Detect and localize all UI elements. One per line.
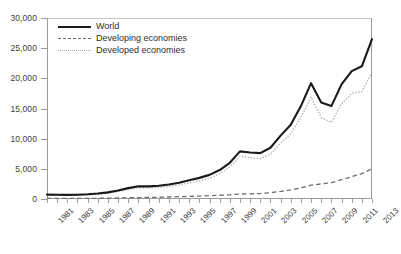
- series-line-developed-economies: [47, 72, 372, 195]
- series-line-world: [47, 39, 372, 195]
